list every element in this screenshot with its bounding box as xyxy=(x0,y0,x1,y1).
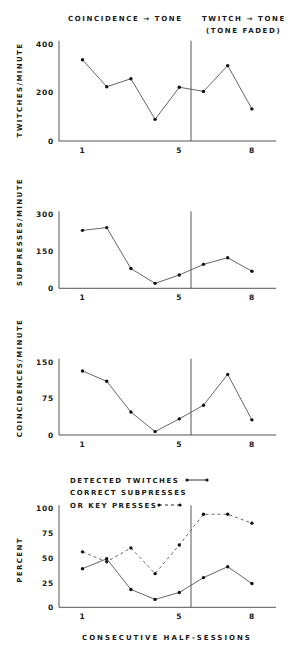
legend-label-detected: DETECTED TWITCHES xyxy=(70,477,179,485)
data-point xyxy=(226,373,229,376)
series-line xyxy=(83,559,252,600)
phase-label-right-1: TWITCH → TONE xyxy=(202,15,286,23)
y-axis-title: PERCENT xyxy=(16,537,24,583)
data-point xyxy=(178,273,181,276)
legend-label-correct-2: OR KEY PRESSES xyxy=(70,502,157,510)
data-point xyxy=(129,410,132,413)
chart-canvas: COINCIDENCE → TONE TWITCH → TONE (TONE F… xyxy=(0,0,295,665)
y-tick-label: 75 xyxy=(42,394,54,403)
data-point xyxy=(81,229,84,232)
data-point xyxy=(226,565,229,568)
x-tick-label: 1 xyxy=(79,612,85,621)
phase-label-left: COINCIDENCE → TONE xyxy=(68,15,183,23)
series-line xyxy=(83,514,252,573)
data-point xyxy=(129,267,132,270)
panels: 0200400158TWITCHES/MINUTE0150300158SUBPR… xyxy=(16,40,276,622)
y-axis-title: COINCIDENCES/MINUTE xyxy=(16,319,24,438)
y-tick-label: 100 xyxy=(36,504,54,513)
data-point xyxy=(250,418,253,421)
data-point xyxy=(250,521,253,524)
data-point xyxy=(129,588,132,591)
data-point xyxy=(153,572,156,575)
legend-dashed-line-icon xyxy=(157,503,181,506)
data-point xyxy=(178,543,181,546)
data-point xyxy=(81,567,84,570)
y-tick-label: 0 xyxy=(48,284,54,293)
data-point xyxy=(153,430,156,433)
x-tick-label: 5 xyxy=(176,293,182,302)
data-point xyxy=(202,90,205,93)
data-point xyxy=(81,58,84,61)
phase-header: COINCIDENCE → TONE TWITCH → TONE (TONE F… xyxy=(68,15,286,35)
y-tick-label: 0 xyxy=(48,603,54,612)
x-tick-label: 8 xyxy=(249,440,255,449)
y-tick-label: 150 xyxy=(36,247,54,256)
data-point xyxy=(105,557,108,560)
y-tick-label: 400 xyxy=(36,40,54,49)
panel-2: 0150300158SUBPRESSES/MINUTE xyxy=(16,178,276,302)
data-point xyxy=(178,86,181,89)
x-tick-label: 8 xyxy=(249,293,255,302)
data-point xyxy=(153,598,156,601)
series-line xyxy=(83,60,252,120)
y-tick-label: 50 xyxy=(42,554,54,563)
x-tick-label: 5 xyxy=(176,612,182,621)
x-tick-label: 5 xyxy=(176,146,182,155)
data-point xyxy=(105,85,108,88)
legend-solid-line-icon xyxy=(185,478,208,481)
y-tick-label: 0 xyxy=(48,137,54,146)
x-tick-label: 1 xyxy=(79,293,85,302)
data-point xyxy=(129,77,132,80)
data-point xyxy=(105,380,108,383)
data-point xyxy=(226,256,229,259)
data-point xyxy=(250,582,253,585)
data-point xyxy=(178,417,181,420)
x-tick-label: 1 xyxy=(79,146,85,155)
data-point xyxy=(250,270,253,273)
data-point xyxy=(81,550,84,553)
y-axis-title: SUBPRESSES/MINUTE xyxy=(16,178,24,286)
y-axis-title: TWITCHES/MINUTE xyxy=(16,43,24,138)
legend-label-correct-1: CORRECT SUBPRESSES xyxy=(70,489,187,497)
data-point xyxy=(178,591,181,594)
y-tick-label: 150 xyxy=(36,358,54,367)
y-tick-label: 300 xyxy=(36,210,54,219)
data-point xyxy=(250,107,253,110)
x-tick-label: 8 xyxy=(249,612,255,621)
panel-3: 075150158COINCIDENCES/MINUTE xyxy=(16,319,276,449)
data-point xyxy=(105,560,108,563)
data-point xyxy=(129,546,132,549)
data-point xyxy=(202,513,205,516)
x-axis-title: CONSECUTIVE HALF-SESSIONS xyxy=(82,634,252,642)
series-line xyxy=(83,228,252,284)
phase-label-right-2: (TONE FADED) xyxy=(206,27,281,35)
data-point xyxy=(226,513,229,516)
data-point xyxy=(202,576,205,579)
data-point xyxy=(105,226,108,229)
data-point xyxy=(202,403,205,406)
x-tick-label: 5 xyxy=(176,440,182,449)
y-tick-label: 25 xyxy=(42,579,54,588)
x-tick-label: 8 xyxy=(249,146,255,155)
data-point xyxy=(81,369,84,372)
data-point xyxy=(153,118,156,121)
data-point xyxy=(153,282,156,285)
x-tick-label: 1 xyxy=(79,440,85,449)
y-tick-label: 200 xyxy=(36,88,54,97)
y-tick-label: 0 xyxy=(48,431,54,440)
y-tick-label: 75 xyxy=(42,529,54,538)
data-point xyxy=(226,64,229,67)
figure: COINCIDENCE → TONE TWITCH → TONE (TONE F… xyxy=(0,0,295,665)
panel-1: 0200400158TWITCHES/MINUTE xyxy=(16,40,276,155)
panel-4: 0255075100158PERCENT xyxy=(16,504,276,621)
legend: DETECTED TWITCHES CORRECT SUBPRESSES OR … xyxy=(70,477,209,510)
data-point xyxy=(202,263,205,266)
